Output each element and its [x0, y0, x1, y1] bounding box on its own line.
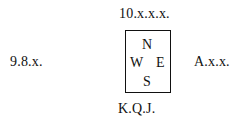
east-hand: A.x.x. — [194, 55, 230, 69]
compass-north-label: N — [142, 38, 152, 52]
compass-box: N W E S — [125, 30, 171, 93]
south-hand: K.Q.J. — [118, 102, 155, 116]
north-hand: 10.x.x.x. — [119, 7, 170, 21]
west-hand: 9.8.x. — [10, 55, 43, 69]
compass-south-label: S — [143, 75, 151, 89]
compass-west-label: W — [130, 56, 143, 70]
compass-east-label: E — [156, 56, 165, 70]
